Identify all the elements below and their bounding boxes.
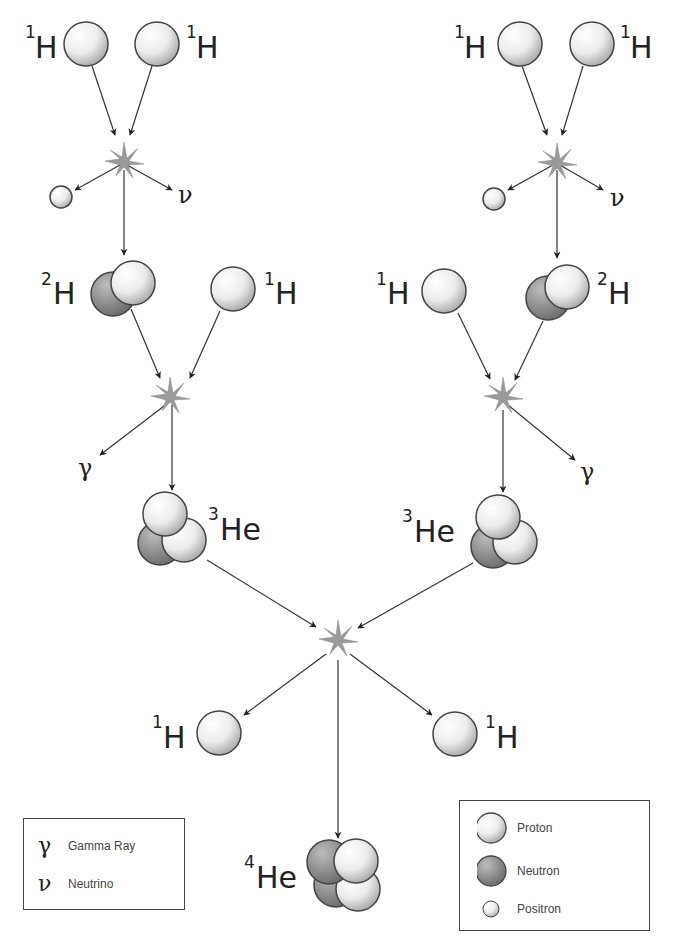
positron-icon — [50, 186, 72, 208]
isotope-mass-number: 1 — [152, 712, 163, 732]
proton-icon — [211, 267, 255, 311]
proton-icon — [143, 492, 187, 536]
proton-icon — [433, 712, 477, 756]
isotope-mass-number: 2 — [597, 269, 608, 289]
neutrino-symbol: ν — [610, 184, 625, 212]
isotope-mass-number: 3 — [208, 504, 219, 524]
isotope-mass-number: 2 — [41, 269, 52, 289]
proton-icon — [476, 495, 520, 539]
legend-label: Neutron — [517, 864, 560, 878]
proton-icon — [334, 839, 378, 883]
isotope-symbol: H — [630, 30, 653, 65]
gamma-ray-symbol: γ — [78, 454, 92, 482]
legend-item-positron: Positron — [477, 897, 561, 921]
proton-icon — [135, 22, 179, 66]
gamma-ray-symbol: γ — [38, 833, 68, 858]
proton-icon — [422, 269, 466, 313]
legend-item-neutron: Neutron — [477, 854, 560, 888]
fusion-star-icon — [151, 377, 190, 413]
isotope-symbol: H — [275, 276, 298, 311]
proton-icon — [545, 265, 589, 309]
isotope-symbol: H — [608, 276, 631, 311]
isotope-symbol: H — [53, 276, 76, 311]
isotope-mass-number: 1 — [485, 712, 496, 732]
fusion-star-icon — [484, 377, 523, 413]
isotope-mass-number: 1 — [376, 269, 387, 289]
isotope-symbol: H — [496, 720, 519, 755]
legend-symbols: γ Gamma Ray ν Neutrino — [23, 818, 185, 910]
legend-label: Gamma Ray — [68, 839, 135, 853]
fusion-star-icon — [319, 620, 358, 656]
neutron-icon — [477, 854, 507, 888]
isotope-symbol: H — [464, 30, 487, 65]
proton-icon — [570, 22, 614, 66]
legend-item-proton: Proton — [477, 811, 552, 845]
legend-item-gamma: γ Gamma Ray — [38, 833, 135, 858]
isotope-mass-number: 4 — [244, 852, 255, 872]
isotope-symbol: He — [220, 512, 261, 547]
legend-label: Neutrino — [68, 877, 113, 891]
neutrino-symbol: ν — [178, 181, 193, 209]
proton-icon — [111, 261, 155, 305]
positron-icon — [477, 897, 507, 921]
isotope-symbol: He — [256, 860, 297, 895]
isotope-symbol: H — [196, 30, 219, 65]
proton-icon — [197, 711, 241, 755]
isotope-symbol: H — [387, 276, 410, 311]
legend-label: Positron — [517, 902, 561, 916]
neutrino-symbol: ν — [38, 871, 68, 896]
legend-label: Proton — [517, 821, 552, 835]
proton-icon — [477, 811, 507, 845]
gamma-ray-symbol: γ — [580, 458, 594, 486]
legend-particles: Proton Neutron Positron — [459, 800, 650, 931]
isotope-symbol: He — [414, 514, 455, 549]
proton-icon — [498, 22, 542, 66]
isotope-symbol: H — [35, 30, 58, 65]
isotope-symbol: H — [163, 720, 186, 755]
proton-icon — [64, 22, 108, 66]
positron-icon — [483, 188, 505, 210]
isotope-mass-number: 1 — [264, 269, 275, 289]
legend-item-neutrino: ν Neutrino — [38, 871, 113, 896]
isotope-mass-number: 3 — [402, 506, 413, 526]
